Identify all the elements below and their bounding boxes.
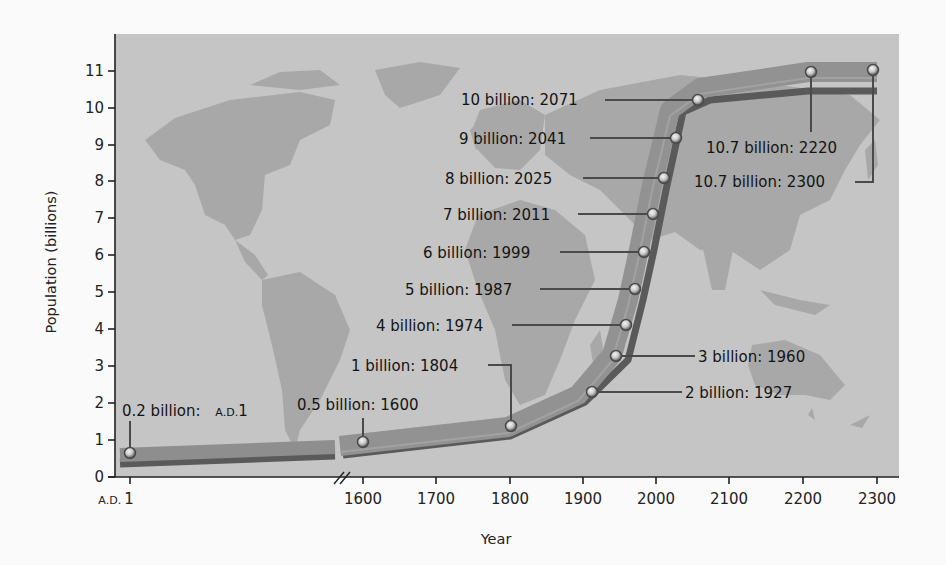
marker-2300 bbox=[868, 65, 879, 76]
svg-text:2000: 2000 bbox=[637, 490, 675, 508]
svg-text:8: 8 bbox=[94, 172, 104, 190]
marker-1960 bbox=[611, 351, 622, 362]
svg-text:6: 6 bbox=[94, 246, 104, 264]
marker-1927 bbox=[587, 387, 598, 398]
svg-text:0: 0 bbox=[94, 468, 104, 486]
y-tick-labels: 0 1 2 3 4 5 6 7 8 9 10 11 bbox=[85, 62, 104, 486]
label-2041: 9 billion: 2041 bbox=[459, 130, 566, 148]
marker-1974 bbox=[621, 320, 632, 331]
svg-text:2300: 2300 bbox=[858, 490, 896, 508]
label-1974: 4 billion: 1974 bbox=[376, 317, 483, 335]
svg-text:5: 5 bbox=[94, 283, 104, 301]
label-2011: 7 billion: 2011 bbox=[443, 206, 550, 224]
marker-1804 bbox=[506, 421, 517, 432]
marker-2071 bbox=[693, 95, 704, 106]
svg-text:1700: 1700 bbox=[417, 490, 455, 508]
svg-text:9: 9 bbox=[94, 136, 104, 154]
label-1600: 0.5 billion: 1600 bbox=[297, 396, 419, 414]
y-axis-title: Population (billions) bbox=[43, 190, 59, 333]
label-1987: 5 billion: 1987 bbox=[405, 281, 512, 299]
label-2025: 8 billion: 2025 bbox=[445, 170, 552, 188]
x-tick-labels: A.D.1 1600 1700 1800 1900 2000 2100 2200… bbox=[98, 490, 896, 508]
marker-2220 bbox=[806, 67, 817, 78]
label-2220: 10.7 billion: 2220 bbox=[706, 139, 837, 157]
svg-text:10: 10 bbox=[85, 99, 104, 117]
marker-1999 bbox=[639, 247, 650, 258]
label-1927: 2 billion: 1927 bbox=[685, 384, 792, 402]
svg-text:2100: 2100 bbox=[710, 490, 748, 508]
svg-text:11: 11 bbox=[85, 62, 104, 80]
svg-text:7: 7 bbox=[94, 209, 104, 227]
population-chart: 0.2 billion: A.D.1 0.5 billion: 1600 1 b… bbox=[0, 0, 946, 565]
svg-text:3: 3 bbox=[94, 357, 104, 375]
svg-text:2: 2 bbox=[94, 394, 104, 412]
label-1804: 1 billion: 1804 bbox=[351, 357, 458, 375]
marker-2011 bbox=[648, 209, 659, 220]
marker-1987 bbox=[630, 284, 641, 295]
label-1960: 3 billion: 1960 bbox=[698, 348, 805, 366]
marker-2025 bbox=[659, 173, 670, 184]
x-axis-title: Year bbox=[480, 531, 512, 547]
label-1999: 6 billion: 1999 bbox=[423, 244, 530, 262]
x-tick-ad1: A.D.1 bbox=[98, 490, 133, 508]
svg-text:1900: 1900 bbox=[564, 490, 602, 508]
marker-1600 bbox=[358, 437, 369, 448]
svg-text:2200: 2200 bbox=[784, 490, 822, 508]
svg-text:1600: 1600 bbox=[344, 490, 382, 508]
svg-text:1: 1 bbox=[94, 431, 104, 449]
svg-text:4: 4 bbox=[94, 320, 104, 338]
svg-text:1800: 1800 bbox=[491, 490, 529, 508]
marker-2041 bbox=[671, 133, 682, 144]
label-2071: 10 billion: 2071 bbox=[461, 91, 578, 109]
marker-ad1 bbox=[125, 448, 136, 459]
label-2300: 10.7 billion: 2300 bbox=[694, 173, 825, 191]
